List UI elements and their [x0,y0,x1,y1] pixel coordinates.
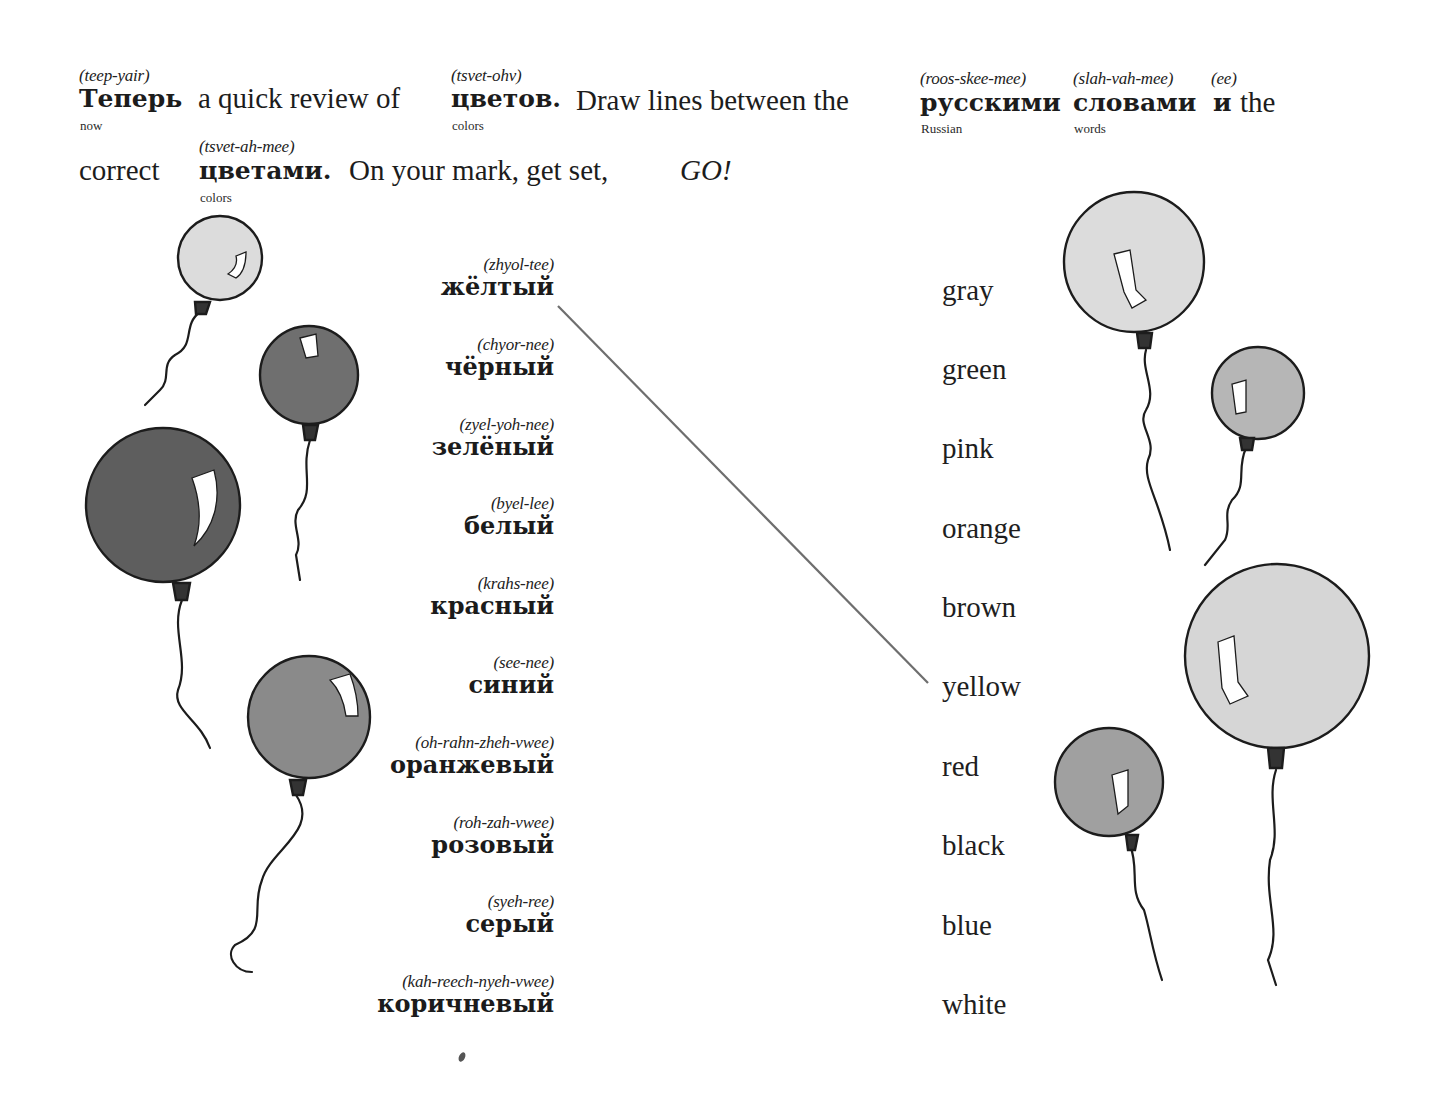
english-item-gray[interactable]: gray [942,274,994,307]
balloon-dark-large [86,428,240,582]
russian-word: оранжевый [390,752,554,778]
russian-word: красный [430,593,554,619]
balloon-string-7 [1130,845,1162,980]
english-item-blue[interactable]: blue [942,909,992,942]
balloon-string-8 [1268,770,1276,985]
balloon-knot-7 [1268,748,1284,768]
english-item-green[interactable]: green [942,353,1006,386]
russian-word: белый [464,513,554,539]
balloon-knot-1 [195,302,210,314]
russian-word: синий [468,672,554,698]
english-item-brown[interactable]: brown [942,591,1016,624]
russian-item-5[interactable]: (krahs-nee) красный [430,575,554,619]
example-match-line [558,306,928,683]
russian-word: чёрный [445,354,554,380]
english-item-white[interactable]: white [942,988,1006,1021]
russian-word: жёлтый [441,274,554,300]
balloon-knot-2 [303,425,318,440]
russian-item-3[interactable]: (zyel-yoh-nee) зелёный [432,416,554,460]
russian-item-8[interactable]: (roh-zah-vwee) розовый [431,814,554,858]
russian-item-10[interactable]: (kah-reech-nyeh-vwee) коричневый [377,973,554,1017]
balloon-knot-8 [1126,835,1138,850]
russian-item-7[interactable]: (oh-rahn-zheh-vwee) оранжевый [390,734,554,778]
balloon-string-4 [231,795,302,972]
balloon-string-3 [177,600,210,748]
balloon-mid-small [1212,347,1304,439]
russian-item-1[interactable]: (zhyol-tee) жёлтый [441,256,554,300]
balloon-light-xlarge [1185,564,1369,748]
ink-speck [457,1051,467,1063]
english-item-pink[interactable]: pink [942,432,994,465]
balloon-mid-medium-right [1055,728,1163,836]
russian-word: коричневый [377,991,554,1017]
balloon-string-1 [145,312,200,405]
balloon-knot-3 [173,583,190,600]
balloon-mid-medium [248,656,370,778]
russian-word: серый [465,911,554,937]
balloon-string-6 [1205,448,1246,565]
balloon-string-2 [295,440,310,580]
russian-word: розовый [431,832,554,858]
balloon-light-large [1064,192,1204,332]
balloon-illustrations [0,0,1434,1099]
russian-item-2[interactable]: (chyor-nee) чёрный [445,336,554,380]
english-item-black[interactable]: black [942,829,1005,862]
russian-item-4[interactable]: (byel-lee) белый [464,495,554,539]
russian-item-9[interactable]: (syeh-ree) серый [465,893,554,937]
russian-item-6[interactable]: (see-nee) синий [468,654,554,698]
balloon-string-5 [1143,350,1170,550]
russian-word: зелёный [432,434,554,460]
english-item-yellow[interactable]: yellow [942,670,1021,703]
english-item-orange[interactable]: orange [942,512,1021,545]
balloon-knot-4 [290,780,306,795]
balloon-light-small [178,216,262,300]
balloon-knot-5 [1137,333,1152,348]
balloon-knot-6 [1240,438,1254,450]
english-item-red[interactable]: red [942,750,979,783]
